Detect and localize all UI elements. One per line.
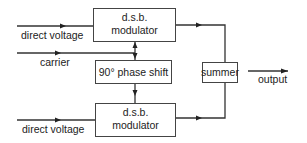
arrow-right-icon (196, 116, 202, 121)
bottom-dsb-modulator-block: d.s.b. modulator (96, 104, 176, 137)
bottom-modulator-line2: modulator (112, 119, 159, 131)
summer-label: summer (201, 66, 239, 78)
arrow-down-icon (133, 90, 138, 96)
top-modulator-to-summer (176, 23, 225, 63)
output-label: output (258, 73, 287, 85)
phase-shift-to-bottom-modulator (133, 84, 138, 103)
top-direct-voltage-input: direct voltage (17, 24, 93, 42)
summer-output: output (248, 69, 288, 86)
top-direct-voltage-label: direct voltage (21, 29, 84, 41)
modulator-block-diagram: direct voltage carrier direct voltage ou… (0, 0, 307, 143)
arrow-right-icon (196, 23, 202, 28)
phase-shift-label: 90° phase shift (99, 66, 169, 78)
bottom-modulator-to-summer (175, 82, 225, 121)
arrow-down-icon (133, 53, 138, 59)
arrow-right-icon (60, 24, 66, 29)
arrow-right-icon (55, 51, 61, 56)
carrier-split-connector (133, 41, 138, 60)
phase-shift-block: 90° phase shift (96, 61, 172, 84)
carrier-label: carrier (40, 56, 70, 68)
bottom-direct-voltage-label: direct voltage (22, 123, 85, 135)
summer-block: summer (201, 63, 239, 83)
top-modulator-line2: modulator (111, 24, 158, 36)
arrow-up-icon (133, 42, 138, 48)
top-modulator-line1: d.s.b. (122, 11, 148, 23)
bottom-modulator-line1: d.s.b. (123, 106, 149, 118)
bottom-direct-voltage-input: direct voltage (17, 118, 95, 136)
top-dsb-modulator-block: d.s.b. modulator (94, 9, 176, 42)
arrow-right-icon (55, 118, 61, 123)
